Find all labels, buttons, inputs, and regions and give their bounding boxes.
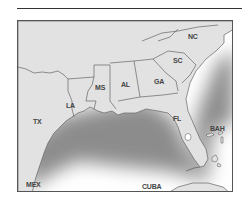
label-ga: GA xyxy=(154,78,164,85)
label-sc: SC xyxy=(173,57,182,64)
map-frame: NC SC GA AL MS LA TX FL BAH MEX CUBA xyxy=(17,20,233,192)
top-rule xyxy=(17,8,242,9)
label-cuba: CUBA xyxy=(142,183,161,190)
label-tx: TX xyxy=(33,118,42,125)
label-ms: MS xyxy=(95,84,105,91)
lake-okeechobee xyxy=(185,134,191,141)
label-nc: NC xyxy=(188,33,198,40)
label-bah: BAH xyxy=(210,125,225,132)
label-mex: MEX xyxy=(26,181,41,188)
southeast-us-map xyxy=(18,21,233,192)
label-al: AL xyxy=(121,81,130,88)
label-fl: FL xyxy=(173,115,181,122)
label-la: LA xyxy=(66,102,75,109)
